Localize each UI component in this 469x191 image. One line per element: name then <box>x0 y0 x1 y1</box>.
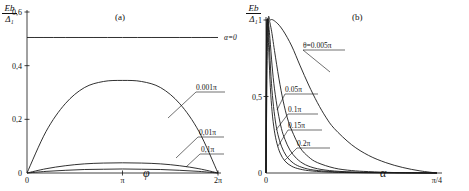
curve-label-005pi: 0.05π <box>285 85 302 94</box>
panel-b-xaxis-title: α <box>380 166 386 181</box>
panel-b-xtick-label: 0 <box>264 176 268 185</box>
panel-b-curve-3 <box>266 20 437 173</box>
panel-b-curve-0 <box>266 16 437 173</box>
panel-a-yaxis-numerator: Eb <box>2 4 17 13</box>
panel-b-yaxis-title: Eb Δ₁ <box>246 4 261 23</box>
panel-b-ytick-label: 0 <box>258 169 262 178</box>
panel-a-yaxis-denominator: Δ₁ <box>2 15 17 24</box>
curve-label-theta-0005pi: θ=0.005π <box>303 41 332 50</box>
curve-label-01pi: 0.1π <box>288 105 301 114</box>
leader-b-tail-0 <box>303 50 330 72</box>
leader-b-tail-4 <box>285 148 297 160</box>
panel-b-ytick-label: 0,5 <box>252 93 262 102</box>
panel-a-xaxis-title: φ <box>143 166 150 181</box>
curve-label-015pi: 0.15π <box>288 121 305 130</box>
figure-container: 00,20,40,60π2πα=00.001π0,01π0,1π 00,510π… <box>0 0 469 191</box>
panel-b-curve-2 <box>266 19 437 173</box>
panel-a-yaxis-title: Eb Δ₁ <box>2 4 17 23</box>
panel-b-yaxis-numerator: Eb <box>246 4 261 13</box>
panel-b-label: (b) <box>352 12 363 22</box>
panel-a-label: (a) <box>115 12 125 22</box>
panel-b: 00,510π/4θ=0.005π0.05π0.1π0.15π0.2π <box>0 0 469 191</box>
leader-b-tail-2 <box>276 114 288 130</box>
panel-b-yaxis-denominator: Δ₁ <box>246 15 261 24</box>
curve-label-02pi: 0.2π <box>297 139 310 148</box>
panel-b-curve-4 <box>266 20 437 173</box>
panel-b-xtick-label: π/4 <box>432 176 442 185</box>
panel-b-curve-1 <box>266 18 437 173</box>
